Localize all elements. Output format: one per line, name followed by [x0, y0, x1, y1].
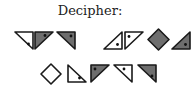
glyph-triangle-gray-icon	[90, 64, 110, 83]
glyph-triangle-gray-icon	[137, 64, 157, 83]
glyph-diamond-white-icon	[40, 63, 62, 85]
glyph-triangle-gray-icon	[56, 31, 76, 50]
glyph-triangle-white-icon	[113, 64, 133, 83]
glyph-triangle-white-icon	[103, 31, 123, 50]
puzzle-title: Decipher:	[0, 3, 180, 18]
glyph-triangle-white-icon	[67, 64, 87, 83]
glyph-triangle-gray-icon	[34, 31, 54, 50]
glyph-diamond-gray-icon	[147, 28, 170, 51]
glyph-triangle-white-icon	[124, 31, 144, 50]
glyph-triangle-gray-icon	[171, 31, 191, 50]
glyph-triangle-white-icon	[14, 31, 34, 50]
